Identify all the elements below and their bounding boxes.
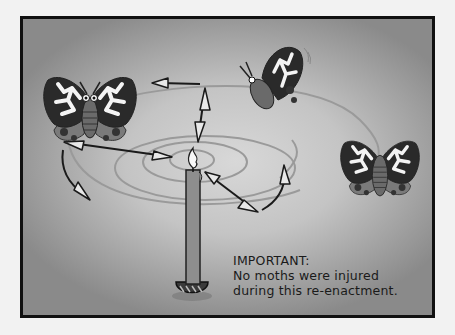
caption-line-2: during this re-enactment. (233, 283, 398, 298)
moth-top (240, 47, 311, 113)
caption-heading: IMPORTANT: (233, 253, 398, 268)
candle (172, 170, 212, 301)
flame (188, 148, 197, 172)
moth-left (44, 77, 137, 141)
moth-right (341, 141, 420, 196)
caption: IMPORTANT: No moths were injured during … (233, 253, 398, 298)
caption-line-1: No moths were injured (233, 268, 398, 283)
